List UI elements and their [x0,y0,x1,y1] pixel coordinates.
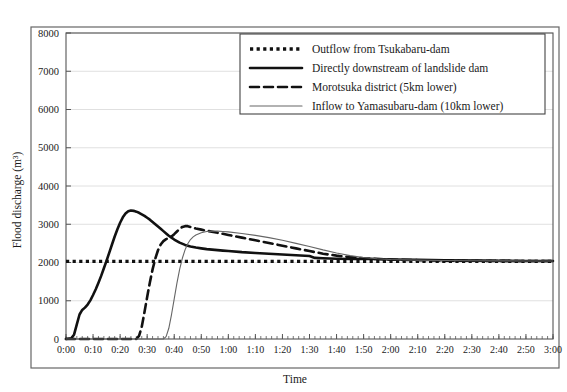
x-tick-label: 0:30 [138,344,156,355]
legend-label-1: Directly downstream of landslide dam [312,62,488,75]
x-tick-label: 3:00 [544,344,562,355]
y-tick-label: 1000 [38,295,59,306]
x-tick-label: 0:00 [57,344,75,355]
legend-label-2: Morotsuka district (5km lower) [312,81,457,94]
x-tick-label: 1:50 [355,344,373,355]
y-tick-label: 2000 [38,257,59,268]
y-tick-label: 6000 [38,104,59,115]
x-tick-label: 2:40 [490,344,508,355]
y-tick-label: 0 [54,334,59,345]
y-tick-label: 7000 [38,66,59,77]
y-tick-label: 8000 [38,28,59,39]
legend-label-0: Outflow from Tsukabaru-dam [312,43,450,55]
x-tick-label: 1:00 [219,344,237,355]
x-tick-label: 2:20 [436,344,454,355]
x-tick-label: 1:30 [301,344,319,355]
chart-figure: 010002000300040005000600070008000 0:000:… [0,0,567,392]
x-tick-label: 1:40 [328,344,346,355]
y-tick-label: 3000 [38,219,59,230]
x-tick-label: 1:10 [246,344,264,355]
x-tick-label: 2:00 [382,344,400,355]
y-tick-label: 5000 [38,142,59,153]
x-tick-label: 0:10 [84,344,102,355]
legend-label-3: Inflow to Yamasubaru-dam (10km lower) [312,100,503,113]
x-tick-label: 2:30 [463,344,481,355]
y-axis-title: Flood discharge (m³) [11,152,24,249]
x-tick-label: 2:10 [409,344,427,355]
x-tick-label: 0:40 [165,344,183,355]
x-tick-label: 0:50 [192,344,210,355]
x-tick-label: 1:20 [274,344,292,355]
chart-legend: Outflow from Tsukabaru-damDirectly downs… [240,34,545,114]
x-axis-title: Time [283,373,307,385]
flood-discharge-chart: 010002000300040005000600070008000 0:000:… [0,0,567,392]
y-tick-label: 4000 [38,181,59,192]
x-tick-label: 0:20 [111,344,129,355]
x-tick-label: 2:50 [517,344,535,355]
y-axis-tick-labels: 010002000300040005000600070008000 [38,28,59,345]
